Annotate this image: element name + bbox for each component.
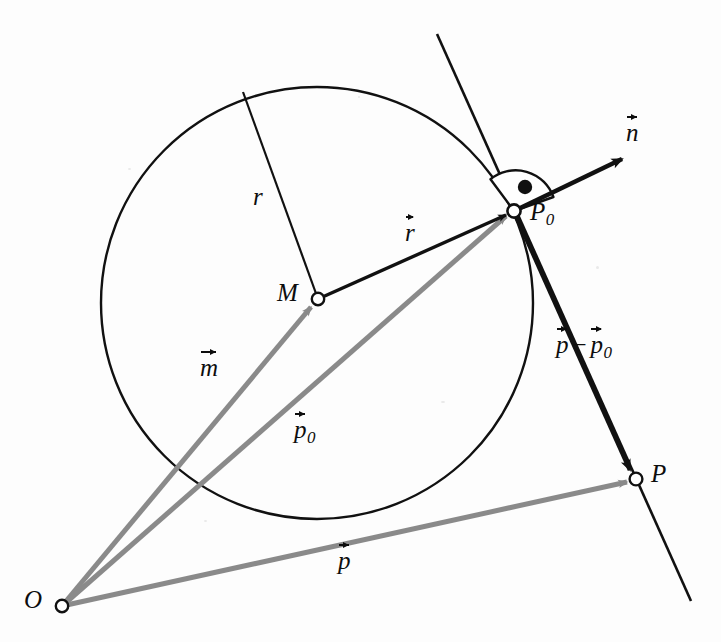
label-center-M: M: [277, 280, 298, 305]
label-point-p: P: [651, 461, 666, 486]
label-vector-n: n: [626, 118, 639, 145]
label-vector-r-text: r: [405, 218, 415, 245]
label-vector-p: p: [338, 546, 351, 573]
point-P-marker: [630, 473, 643, 486]
diagram-canvas: O M r P0 P n r m p0 p p−p0: [0, 0, 721, 642]
label-vector-p0: p0: [294, 415, 316, 446]
label-point-p0-subscript: 0: [546, 210, 555, 229]
label-vector-diff-minus: −: [573, 331, 587, 358]
label-vector-diff-trail: p: [591, 330, 604, 357]
label-vector-p0-subscript: 0: [307, 428, 316, 447]
label-vector-n-text: n: [626, 118, 639, 145]
label-vector-r: r: [405, 218, 415, 245]
label-vector-diff-lead: p: [556, 330, 569, 357]
label-point-p0-base: P: [530, 198, 545, 225]
label-origin: O: [24, 587, 42, 612]
label-radius-r: r: [253, 184, 263, 209]
point-O-marker: [56, 600, 68, 612]
label-vector-p0-text: p: [294, 415, 307, 442]
label-vector-p-text: p: [338, 546, 351, 573]
angle-marker-dot: [518, 180, 532, 194]
label-vector-m-text: m: [200, 353, 218, 380]
point-P0-marker: [507, 204, 520, 217]
point-M-marker: [312, 293, 324, 305]
vector-diagram-svg: [0, 0, 721, 642]
label-vector-diff-trail-subscript: 0: [604, 343, 613, 362]
label-point-p0: P0: [530, 199, 554, 228]
label-vector-m: m: [200, 353, 218, 380]
label-vector-p-minus-p0: p−p0: [556, 330, 612, 361]
